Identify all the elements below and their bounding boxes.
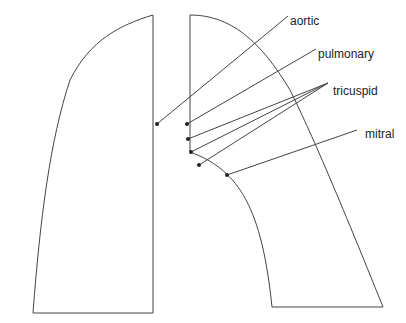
label-mitral: mitral xyxy=(365,128,394,140)
dot-pulmonary xyxy=(185,122,189,126)
label-pulmonary: pulmonary xyxy=(318,48,374,60)
dot-aortic xyxy=(155,122,159,126)
dot-tricuspid-1 xyxy=(186,137,190,141)
leader-tricuspid-2 xyxy=(191,83,328,152)
heart-valve-diagram: aortic pulmonary tricuspid mitral xyxy=(0,0,406,323)
left-shape xyxy=(33,15,153,313)
dot-mitral xyxy=(225,173,229,177)
leader-aortic xyxy=(157,16,288,124)
dot-tricuspid-2 xyxy=(189,150,193,154)
label-tricuspid: tricuspid xyxy=(333,85,378,97)
leader-pulmonary xyxy=(187,49,316,124)
label-aortic: aortic xyxy=(290,15,319,27)
leader-mitral xyxy=(227,130,357,175)
dot-tricuspid-3 xyxy=(197,163,201,167)
leader-tricuspid-3 xyxy=(199,83,328,165)
